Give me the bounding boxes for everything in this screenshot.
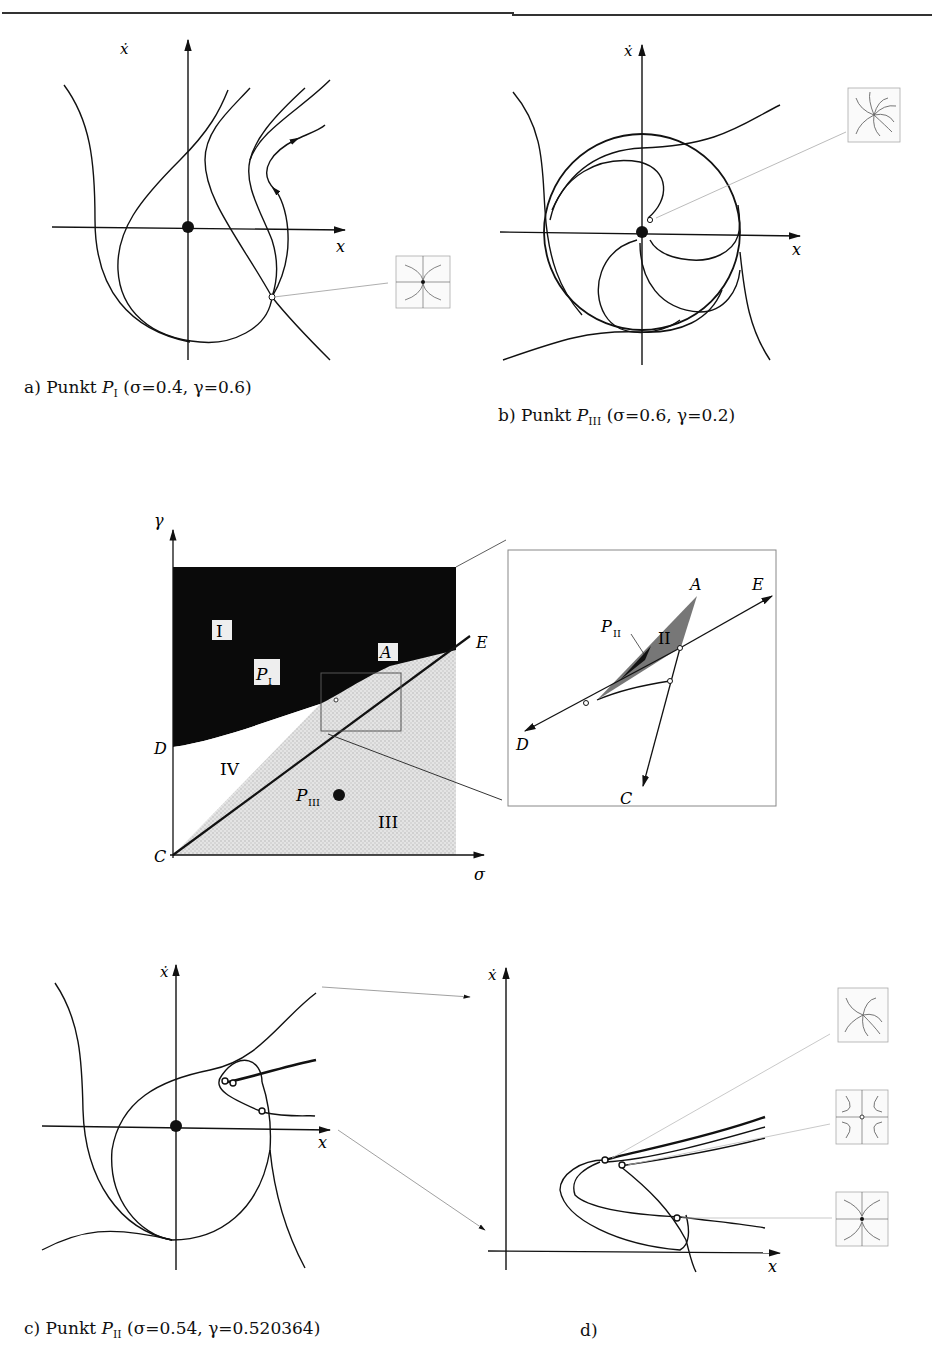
marker-P3: P	[295, 785, 308, 805]
marker-P3-sub: III	[308, 797, 320, 808]
axis-label-x-d: x	[768, 1257, 777, 1276]
caption-d-label: d)	[580, 1320, 598, 1340]
phase-portrait-d	[488, 968, 832, 1272]
inset-label-A: A	[688, 575, 702, 594]
caption-a-sub: I	[114, 387, 118, 400]
point-label-A: A	[378, 643, 392, 662]
region-label-III: III	[378, 812, 398, 832]
region-label-I: I	[216, 621, 223, 641]
caption-b-point: P	[577, 405, 588, 425]
axis-label-gamma: γ	[154, 511, 164, 530]
saddle-icon	[836, 1090, 888, 1144]
caption-a-params: (σ=0.4, γ=0.6)	[123, 377, 251, 397]
inset-region-label-II: II	[658, 629, 671, 648]
point-label-D: D	[153, 739, 167, 758]
inset-label-E: E	[751, 575, 764, 594]
inset-marker-P2: P	[600, 617, 612, 636]
caption-c: c) Punkt PII (σ=0.54, γ=0.520364)	[24, 1318, 320, 1341]
caption-c-params: (σ=0.54, γ=0.520364)	[127, 1318, 320, 1338]
saddle-node-icon	[396, 256, 450, 308]
figure-canvas: ẋ x ẋ x	[0, 0, 936, 1351]
point-label-E: E	[475, 633, 488, 652]
inset-marker-P2-sub: II	[613, 628, 621, 639]
inset-label-C: C	[620, 789, 632, 808]
caption-a-prefix: a) Punkt	[24, 377, 102, 397]
axis-label-y-a: ẋ	[120, 40, 129, 58]
marker-P1-sub: I	[268, 676, 272, 687]
caption-a: a) Punkt PI (σ=0.4, γ=0.6)	[24, 377, 252, 400]
phase-portrait-a	[52, 40, 388, 360]
point-label-C: C	[154, 847, 166, 866]
inset-label-D: D	[515, 735, 529, 754]
region-label-IV: IV	[220, 759, 240, 779]
spiral-focus-icon	[838, 988, 888, 1042]
axis-label-x-a: x	[336, 237, 345, 256]
marker-P1: P	[255, 664, 268, 684]
caption-b: b) Punkt PIII (σ=0.6, γ=0.2)	[498, 405, 735, 428]
caption-b-prefix: b) Punkt	[498, 405, 577, 425]
axis-label-y-c: ẋ	[160, 963, 169, 981]
caption-b-sub: III	[588, 415, 601, 428]
axis-label-x-c: x	[318, 1133, 327, 1152]
node-icon	[836, 1192, 888, 1246]
phase-portrait-b	[500, 45, 846, 365]
axis-label-sigma: σ	[474, 865, 486, 884]
phase-portrait-c	[42, 965, 485, 1270]
caption-a-point: P	[102, 377, 113, 397]
axis-label-y-b: ẋ	[624, 42, 633, 60]
axis-label-x-b: x	[792, 240, 801, 259]
caption-b-params: (σ=0.6, γ=0.2)	[607, 405, 735, 425]
caption-c-point: P	[101, 1318, 112, 1338]
bifurcation-zoom-inset	[508, 550, 776, 806]
spiral-focus-icon	[848, 88, 900, 142]
x-axis	[52, 227, 345, 230]
axis-label-y-d: ẋ	[488, 966, 497, 984]
caption-c-prefix: c) Punkt	[24, 1318, 101, 1338]
fixed-point-focus	[182, 221, 194, 233]
caption-d: d)	[580, 1320, 598, 1340]
bifurcation-diagram	[170, 530, 506, 858]
caption-c-sub: II	[113, 1328, 122, 1341]
